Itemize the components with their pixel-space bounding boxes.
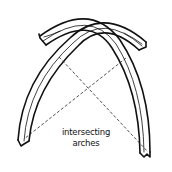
caption-line-2: arches <box>46 138 126 148</box>
caption-line-1: intersecting <box>46 127 126 137</box>
